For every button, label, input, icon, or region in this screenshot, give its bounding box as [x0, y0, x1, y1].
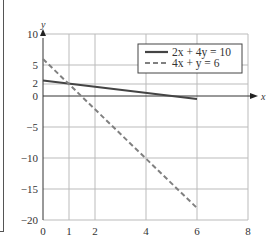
x-axis-label: x	[260, 91, 266, 102]
svg-text:1: 1	[66, 225, 72, 237]
svg-text:8: 8	[245, 225, 251, 237]
svg-text:10: 10	[27, 28, 39, 40]
svg-text:−10: −10	[21, 152, 39, 164]
svg-text:6: 6	[194, 225, 200, 237]
svg-text:4: 4	[143, 225, 149, 237]
chart: y x 10 5 2 0 −5 −10 −15 −20 0 1 2 4 6 8 …	[0, 0, 268, 249]
svg-text:0: 0	[33, 90, 39, 102]
x-tick-labels: 0 1 2 4 6 8	[40, 225, 251, 237]
series-line-4x-y-6	[43, 59, 197, 208]
svg-text:2: 2	[92, 225, 98, 237]
svg-text:−15: −15	[21, 183, 39, 195]
legend-item-2: 4x + y = 6	[172, 57, 220, 70]
y-axis-arrow-icon	[40, 29, 46, 36]
svg-text:5: 5	[33, 59, 39, 71]
svg-text:−20: −20	[21, 214, 39, 226]
x-axis-arrow-icon	[250, 93, 258, 99]
svg-text:−5: −5	[26, 121, 38, 133]
svg-text:0: 0	[40, 225, 46, 237]
svg-text:2: 2	[33, 77, 39, 89]
y-tick-labels: 10 5 2 0 −5 −10 −15 −20	[21, 28, 39, 226]
legend: 2x + 4y = 10 4x + y = 6	[138, 44, 242, 73]
y-axis-label: y	[40, 19, 46, 30]
